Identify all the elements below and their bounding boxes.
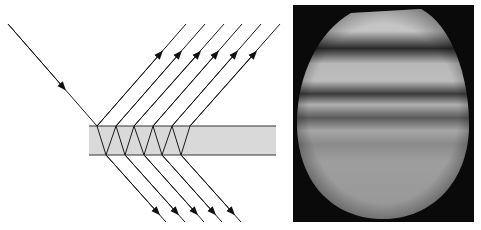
fringe-pattern xyxy=(293,5,474,222)
transmitted-rays xyxy=(106,155,241,222)
incident-ray xyxy=(8,24,97,126)
reflected-rays xyxy=(97,24,280,126)
interference-fringe-photo xyxy=(293,5,474,222)
thin-film-ray-diagram xyxy=(0,0,290,230)
